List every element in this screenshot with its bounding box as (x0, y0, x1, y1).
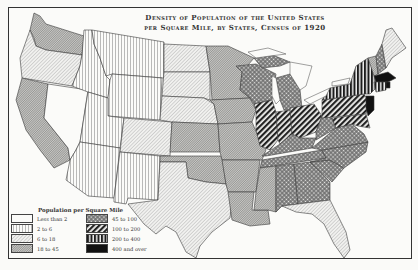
state-new-jersey[interactable] (366, 96, 374, 116)
state-colorado[interactable] (120, 118, 172, 156)
legend-item-45-to-100: 45 to 100 (86, 215, 137, 222)
pattern-heavy-vertical-icon (86, 234, 108, 243)
state-rhode-island[interactable] (386, 82, 390, 88)
legend: Population per Square Mile Less than 2 2… (11, 207, 161, 257)
legend-item-18-to-45: 18 to 45 (11, 245, 59, 252)
pattern-vertical-lines-icon (11, 224, 33, 233)
legend-item-100-to-200: 100 to 200 (86, 225, 140, 232)
legend-item-6-to-18: 6 to 18 (11, 235, 55, 242)
legend-item-200-to-400: 200 to 400 (86, 235, 140, 242)
state-arkansas[interactable] (222, 160, 260, 192)
pattern-solid-black-icon (86, 244, 108, 253)
pattern-dense-diagonal-icon (11, 244, 33, 253)
state-wyoming[interactable] (108, 74, 162, 120)
lake-superior (248, 48, 286, 58)
title-line-2: per Square Mile, by States, Census of 19… (120, 23, 350, 33)
pattern-crosshatch-icon (86, 214, 108, 223)
state-kansas[interactable] (170, 122, 220, 152)
state-connecticut[interactable] (374, 82, 386, 92)
map-title: Density of Population of the United Stat… (120, 13, 350, 33)
legend-item-2-to-6: 2 to 6 (11, 225, 52, 232)
pattern-light-diagonal-icon (11, 234, 33, 243)
state-north-dakota[interactable] (164, 44, 210, 72)
pattern-heavy-diagonal-icon (86, 224, 108, 233)
legend-title: Population per Square Mile (38, 207, 123, 213)
title-line-1: Density of Population of the United Stat… (120, 13, 350, 23)
state-new-mexico[interactable] (114, 152, 160, 204)
legend-item-less-than-2: Less than 2 (11, 215, 67, 222)
state-south-dakota[interactable] (162, 72, 210, 100)
legend-item-400-and-over: 400 and over (86, 245, 147, 252)
state-nebraska[interactable] (160, 96, 218, 124)
state-florida[interactable] (282, 200, 350, 258)
pattern-blank-icon (11, 214, 33, 223)
state-maine[interactable] (382, 28, 406, 68)
